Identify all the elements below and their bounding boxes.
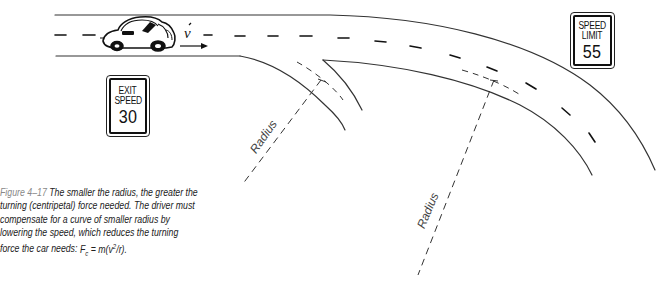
radius-lines: [242, 80, 494, 275]
radius-line-large: [418, 80, 494, 275]
speed-limit-sign: SPEED LIMIT 55: [570, 12, 615, 69]
road-lower-edge-curve: [323, 60, 592, 175]
radius-ticks: [318, 79, 498, 82]
velocity-label: v: [184, 25, 191, 42]
formula: Fc = m(v2/r).: [80, 244, 127, 255]
car-icon: [100, 17, 175, 51]
limit-sign-line2: LIMIT: [582, 31, 602, 41]
exit-sign-line2: SPEED: [114, 96, 142, 106]
exit-ramp-outer-edge: [240, 56, 345, 130]
radius-line-small: [242, 80, 321, 185]
figure-label: Figure 4–17: [0, 187, 47, 198]
exit-ramp-inner-edge: [323, 60, 362, 110]
figure-caption: Figure 4–17 The smaller the radius, the …: [0, 186, 200, 260]
exit-speed-sign: EXIT SPEED 30: [106, 75, 150, 137]
exit-sign-number: 30: [119, 107, 138, 126]
limit-sign-number: 55: [583, 42, 602, 61]
